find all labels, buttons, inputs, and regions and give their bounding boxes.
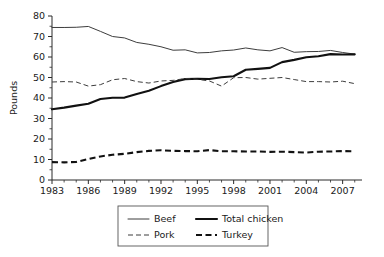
y-axis-ticks xyxy=(48,16,52,180)
x-tick-label: 1992 xyxy=(149,185,173,196)
y-tick-label: 10 xyxy=(33,154,45,165)
line-chart: Pounds 01020304050607080 198319861989199… xyxy=(0,0,384,257)
data-series-group xyxy=(52,26,355,162)
y-tick-label: 0 xyxy=(39,174,45,185)
x-tick-label: 1998 xyxy=(222,185,246,196)
legend-label-beef: Beef xyxy=(154,213,176,224)
x-axis-ticks xyxy=(52,180,355,184)
y-tick-label: 20 xyxy=(33,133,45,144)
x-axis-tick-labels: 198319861989199219951998200120042007 xyxy=(40,185,355,196)
y-tick-label: 40 xyxy=(33,92,45,103)
series-line-beef xyxy=(52,26,355,54)
series-line-turkey xyxy=(52,150,355,162)
chart-legend: BeefTotal chickenPorkTurkey xyxy=(118,206,283,246)
x-tick-label: 1983 xyxy=(40,185,64,196)
x-tick-label: 2004 xyxy=(294,185,318,196)
chart-canvas: Pounds 01020304050607080 198319861989199… xyxy=(0,0,384,257)
x-tick-label: 2001 xyxy=(258,185,282,196)
y-axis-title: Pounds xyxy=(8,81,19,115)
x-tick-label: 1995 xyxy=(185,185,209,196)
x-tick-label: 1986 xyxy=(76,185,100,196)
x-tick-label: 1989 xyxy=(113,185,137,196)
legend-label-turkey: Turkey xyxy=(221,229,253,240)
y-tick-label: 80 xyxy=(33,10,45,21)
legend-label-total-chicken: Total chicken xyxy=(221,213,283,224)
legend-items: BeefTotal chickenPorkTurkey xyxy=(128,213,283,240)
x-tick-label: 2007 xyxy=(331,185,355,196)
legend-label-pork: Pork xyxy=(154,229,175,240)
y-tick-label: 70 xyxy=(33,31,45,42)
y-axis-tick-labels: 01020304050607080 xyxy=(33,10,45,185)
y-tick-label: 50 xyxy=(33,72,45,83)
y-tick-label: 60 xyxy=(33,51,45,62)
y-tick-label: 30 xyxy=(33,113,45,124)
